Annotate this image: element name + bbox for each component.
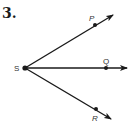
point-p (93, 23, 97, 27)
ray-sr (25, 68, 111, 119)
point-label-q: Q (103, 57, 109, 66)
vertex-label-s: S (14, 64, 19, 73)
ray-sp (25, 15, 113, 68)
point-label-r: R (92, 114, 98, 123)
angle-diagram: S P Q R (0, 0, 136, 137)
point-q (104, 66, 108, 70)
point-label-p: P (89, 14, 95, 23)
vertex-point-s (22, 65, 27, 70)
point-r (94, 107, 98, 111)
